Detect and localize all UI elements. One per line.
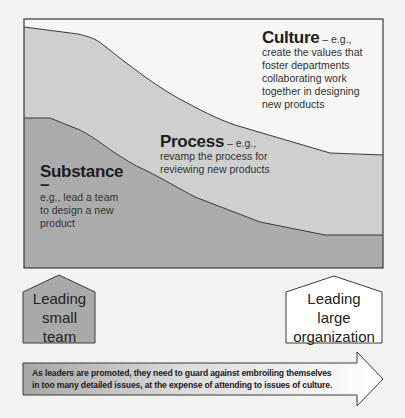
culture-eg: – e.g.,	[319, 33, 351, 45]
substance-line: to design a new	[40, 204, 130, 217]
culture-heading: Culture	[262, 28, 319, 47]
process-eg: – e.g.,	[224, 137, 256, 149]
culture-line: create the values that	[262, 46, 392, 59]
house-right-line: organization	[286, 327, 382, 346]
arrow-caption-line: in too many detailed issues, at the expe…	[32, 379, 352, 391]
culture-line: new products	[262, 98, 392, 111]
culture-label: Culture – e.g., create the values that f…	[262, 31, 392, 111]
culture-line: collaborating work	[262, 72, 392, 85]
substance-heading: Substance –	[40, 165, 130, 191]
house-left-label: Leading small team	[24, 289, 95, 346]
house-left-line: Leading	[24, 289, 95, 308]
house-left-line: team	[24, 327, 95, 346]
arrow-caption-line: As leaders are promoted, they need to gu…	[32, 367, 352, 379]
process-line: revamp the process for	[160, 150, 300, 163]
substance-line: product	[40, 217, 130, 230]
process-heading: Process	[160, 132, 224, 151]
process-label: Process – e.g., revamp the process for r…	[160, 135, 300, 176]
substance-label: Substance – e.g., lead a team to design …	[40, 165, 130, 230]
arrow-caption: As leaders are promoted, they need to gu…	[32, 367, 352, 391]
house-right-line: large	[286, 308, 382, 327]
house-left-line: small	[24, 308, 95, 327]
culture-line: foster departments	[262, 59, 392, 72]
culture-line: together in designing	[262, 85, 392, 98]
substance-line: e.g., lead a team	[40, 191, 130, 204]
process-line: reviewing new products	[160, 163, 300, 176]
house-right-label: Leading large organization	[286, 289, 382, 346]
house-right-line: Leading	[286, 289, 382, 308]
